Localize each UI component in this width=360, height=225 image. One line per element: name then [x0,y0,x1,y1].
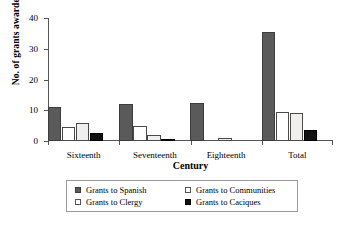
bar [76,123,90,141]
legend-swatch-icon [185,199,191,205]
y-tick-label: 30 [29,44,38,54]
x-tick [48,141,49,145]
x-tick-label: Seventeenth [133,150,177,160]
chart-legend: Grants to SpanishGrants to CommunitiesGr… [66,180,298,212]
y-tick-label: 10 [29,105,38,115]
bar [48,107,62,141]
y-axis-title: No. of grants awarded [11,0,21,99]
x-tick-label: Total [288,150,306,160]
legend-item: Grants to Spanish [75,185,181,195]
x-tick [191,141,192,145]
x-tick [332,141,333,145]
bar [218,138,232,141]
bar [304,130,318,141]
bar [62,127,76,141]
x-tick-label: Eighteenth [207,150,246,160]
legend-swatch-icon [75,199,81,205]
bar [147,135,161,141]
bar-group: Eighteenth [191,18,262,141]
legend-label: Grants to Clergy [86,197,143,207]
y-tick-label: 40 [29,13,38,23]
legend-label: Grants to Spanish [86,185,146,195]
bar [161,139,175,141]
legend-item: Grants to Clergy [75,197,181,207]
bar-group: Seventeenth [119,18,190,141]
y-tick-label: 20 [29,75,38,85]
legend-swatch-icon [185,187,191,193]
x-tick [262,141,263,145]
legend-item: Grants to Communities [185,185,291,195]
y-tick-label: 0 [34,136,39,146]
bar [262,32,276,141]
bar-chart: No. of grants awarded 010203040 Sixteent… [0,0,360,225]
x-axis-title: Century [48,160,333,171]
bar-group: Sixteenth [48,18,119,141]
bar [290,113,304,141]
legend-item: Grants to Caciques [185,197,291,207]
bar [119,104,133,141]
x-tick-label: Sixteenth [67,150,101,160]
bar [190,103,204,141]
legend-label: Grants to Communities [196,185,275,195]
plot-area: 010203040 SixteenthSeventeenthEighteenth… [48,18,333,141]
bar-group: Total [262,18,333,141]
bar [276,112,290,141]
legend-swatch-icon [75,187,81,193]
bar [133,126,147,141]
bar [90,133,104,141]
legend-label: Grants to Caciques [196,197,261,207]
x-tick [119,141,120,145]
